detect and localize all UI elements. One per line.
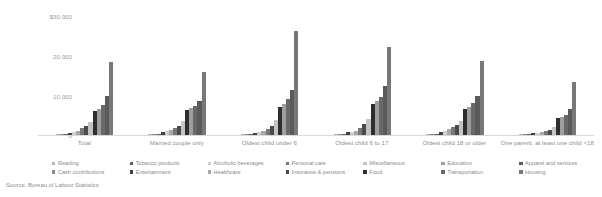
legend-column: MiscellaneousFood <box>363 160 441 176</box>
bar-groups <box>38 8 594 135</box>
legend-swatch-icon <box>52 170 55 173</box>
legend-item-label: Insurance & pensions <box>291 169 345 176</box>
legend-item-label: Apparel and services <box>525 160 577 167</box>
x-axis-line <box>38 135 594 136</box>
bar <box>202 72 206 135</box>
x-axis-category-label: Oldest child 6 to 17 <box>316 139 409 146</box>
bar-group <box>131 8 224 135</box>
legend-item[interactable]: Miscellaneous <box>363 160 441 167</box>
legend-item-label: Education <box>447 160 472 167</box>
bar-group <box>316 8 409 135</box>
legend-item-label: Alcoholic beverages <box>214 160 264 167</box>
legend-item-label: Entertainment <box>136 169 171 176</box>
legend-swatch-icon <box>519 170 522 173</box>
legend-swatch-icon <box>52 162 55 165</box>
legend-item-label: Transportation <box>447 169 483 176</box>
legend-item[interactable]: Alcoholic beverages <box>208 160 286 167</box>
bar <box>387 47 391 135</box>
legend-swatch-icon <box>441 162 444 165</box>
legend-item-label: Reading <box>58 160 79 167</box>
legend-swatch-icon <box>441 170 444 173</box>
legend-item[interactable]: Apparel and services <box>519 160 597 167</box>
legend-column: Alcoholic beveragesHealthcare <box>208 160 286 176</box>
legend-item-label: Healthcare <box>214 169 241 176</box>
legend-column: Tobacco productsEntertainment <box>130 160 208 176</box>
legend-item[interactable]: Transportation <box>441 169 519 176</box>
legend-swatch-icon <box>130 170 133 173</box>
legend-swatch-icon <box>363 170 366 173</box>
legend-swatch-icon <box>208 170 211 173</box>
legend-swatch-icon <box>286 170 289 173</box>
legend-swatch-icon <box>363 162 366 165</box>
legend-item-label: Miscellaneous <box>369 160 404 167</box>
legend-item[interactable]: Cash contributions <box>52 169 130 176</box>
legend-item[interactable]: Insurance & pensions <box>286 169 364 176</box>
x-axis-category-label: Oldest child 18 or older <box>408 139 501 146</box>
legend-item-label: Housing <box>525 169 546 176</box>
bar <box>294 31 298 135</box>
bar-group <box>38 8 131 135</box>
legend-column: Personal careInsurance & pensions <box>286 160 364 176</box>
x-axis-category-label: One parent, at least one child <18 <box>501 139 594 146</box>
legend-item[interactable]: Housing <box>519 169 597 176</box>
legend-swatch-icon <box>208 162 211 165</box>
legend-item-label: Food <box>369 169 382 176</box>
bar <box>572 82 576 135</box>
legend-item[interactable]: Tobacco products <box>130 160 208 167</box>
bar <box>109 62 113 135</box>
x-axis-category-label: Total <box>38 139 131 146</box>
legend-item[interactable]: Reading <box>52 160 130 167</box>
legend-swatch-icon <box>130 162 133 165</box>
bar-group <box>501 8 594 135</box>
bar-group <box>223 8 316 135</box>
legend-item-label: Tobacco products <box>136 160 180 167</box>
legend-item-label: Cash contributions <box>58 169 104 176</box>
legend-column: ReadingCash contributions <box>52 160 130 176</box>
x-axis-category-label: Married couple only <box>131 139 224 146</box>
legend-column: Apparel and servicesHousing <box>519 160 597 176</box>
legend-swatch-icon <box>286 162 289 165</box>
legend-item[interactable]: Healthcare <box>208 169 286 176</box>
legend-item[interactable]: Entertainment <box>130 169 208 176</box>
source-note: Source: Bureau of Labour Statistics <box>6 182 99 188</box>
bar-chart: $30,000 20,000 10,000 0 TotalMarried cou… <box>0 0 602 197</box>
legend-swatch-icon <box>519 162 522 165</box>
bar <box>480 61 484 135</box>
legend-item[interactable]: Food <box>363 169 441 176</box>
legend-column: EducationTransportation <box>441 160 519 176</box>
x-axis-category-labels: TotalMarried couple onlyOldest child und… <box>38 139 594 146</box>
legend-item-label: Personal care <box>291 160 326 167</box>
legend-item[interactable]: Education <box>441 160 519 167</box>
chart-legend: ReadingCash contributionsTobacco product… <box>52 160 597 176</box>
legend-item[interactable]: Personal care <box>286 160 364 167</box>
bar-group <box>409 8 502 135</box>
x-axis-category-label: Oldest child under 6 <box>223 139 316 146</box>
